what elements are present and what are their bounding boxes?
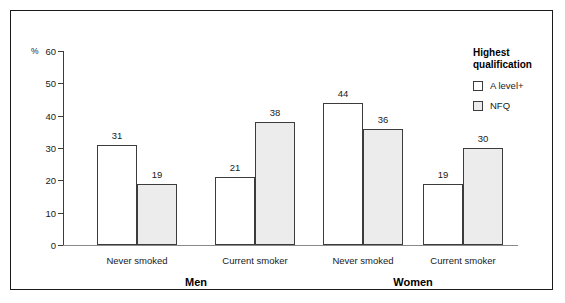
bar-value-label: 44 bbox=[338, 88, 349, 99]
category-label: Never smoked bbox=[106, 255, 167, 266]
bar-value-label: 38 bbox=[270, 107, 281, 118]
y-axis-tick-label: 50 bbox=[45, 78, 56, 89]
bar-value-label: 19 bbox=[438, 169, 449, 180]
y-axis-tick-mark bbox=[58, 180, 63, 181]
bar-value-label: 30 bbox=[478, 133, 489, 144]
legend-swatch bbox=[473, 81, 483, 91]
y-axis-tick-label: 20 bbox=[45, 175, 56, 186]
y-axis-tick-label: 40 bbox=[45, 110, 56, 121]
category-label: Never smoked bbox=[332, 255, 393, 266]
y-axis-tick-label: 10 bbox=[45, 207, 56, 218]
y-axis-tick-label: 60 bbox=[45, 46, 56, 57]
bar bbox=[423, 184, 463, 245]
bar bbox=[97, 145, 137, 245]
legend-item: NFQ bbox=[473, 100, 563, 111]
y-axis-tick-mark bbox=[58, 213, 63, 214]
y-axis-tick-mark bbox=[58, 245, 63, 246]
y-axis-tick-mark bbox=[58, 51, 63, 52]
y-axis-line bbox=[63, 51, 64, 245]
x-axis-baseline bbox=[63, 245, 518, 246]
bar bbox=[323, 103, 363, 245]
category-label: Current smoker bbox=[222, 255, 287, 266]
bar-value-label: 31 bbox=[112, 130, 123, 141]
y-axis-tick-label: 0 bbox=[51, 240, 56, 251]
legend-item: A level+ bbox=[473, 80, 563, 91]
legend-items: A level+NFQ bbox=[473, 80, 563, 111]
plot-area: 0102030405060 3119213844361930 Never smo… bbox=[63, 51, 518, 245]
bar bbox=[463, 148, 503, 245]
legend-label: A level+ bbox=[490, 80, 524, 91]
y-axis-unit-label: % bbox=[31, 46, 39, 56]
y-axis-tick-mark bbox=[58, 116, 63, 117]
bar-value-label: 19 bbox=[152, 169, 163, 180]
bar bbox=[255, 122, 295, 245]
bar-value-label: 36 bbox=[378, 114, 389, 125]
legend-label: NFQ bbox=[490, 100, 510, 111]
chart-legend: Highest qualification A level+NFQ bbox=[473, 47, 563, 120]
category-label: Current smoker bbox=[430, 255, 495, 266]
y-axis-tick-label: 30 bbox=[45, 143, 56, 154]
legend-swatch bbox=[473, 101, 483, 111]
legend-title: Highest qualification bbox=[473, 47, 563, 71]
group-label: Women bbox=[393, 276, 433, 288]
chart-screenshot: % 0102030405060 3119213844361930 Never s… bbox=[0, 0, 565, 303]
chart-frame: % 0102030405060 3119213844361930 Never s… bbox=[10, 10, 553, 290]
bar-value-label: 21 bbox=[230, 162, 241, 173]
y-axis-tick-mark bbox=[58, 83, 63, 84]
y-axis-tick-mark bbox=[58, 148, 63, 149]
bar bbox=[363, 129, 403, 245]
group-label: Men bbox=[185, 276, 207, 288]
bar bbox=[215, 177, 255, 245]
bar bbox=[137, 184, 177, 245]
